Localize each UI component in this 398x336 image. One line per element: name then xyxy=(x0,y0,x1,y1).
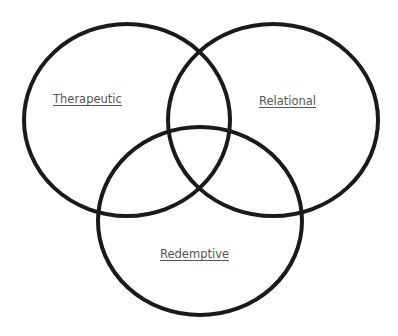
relational-label: Relational xyxy=(259,96,316,108)
redemptive-label: Redemptive xyxy=(160,249,229,261)
venn-diagram: Therapeutic Relational Redemptive xyxy=(0,0,398,336)
venn-circles xyxy=(0,0,398,336)
relational-circle xyxy=(168,24,378,216)
therapeutic-label: Therapeutic xyxy=(53,94,122,106)
redemptive-circle xyxy=(98,127,302,315)
